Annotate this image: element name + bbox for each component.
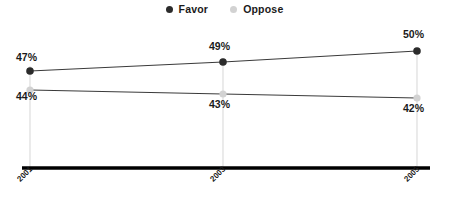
value-label-oppose-2005: 42%	[403, 103, 424, 114]
data-point-oppose-2003[interactable]	[219, 90, 226, 97]
line-chart: Favor Oppose	[0, 0, 449, 203]
value-label-oppose-2001: 44%	[16, 91, 37, 102]
value-label-oppose-2003: 43%	[209, 99, 230, 110]
value-label-favor-2001: 47%	[16, 52, 37, 63]
value-label-favor-2003: 49%	[209, 41, 230, 52]
value-label-favor-2005: 50%	[403, 29, 424, 40]
data-point-oppose-2005[interactable]	[413, 94, 420, 101]
data-point-favor-2001[interactable]	[26, 67, 34, 75]
plot-area: 47% 49% 50% 44% 43% 42% 2001 2003 2005	[0, 0, 449, 203]
data-point-favor-2003[interactable]	[219, 58, 227, 66]
data-point-favor-2005[interactable]	[413, 47, 421, 55]
